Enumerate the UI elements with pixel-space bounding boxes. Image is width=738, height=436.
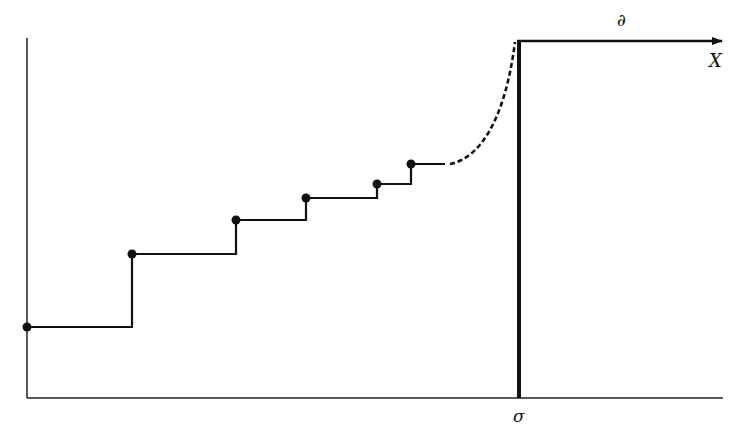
step-dot [232, 216, 241, 225]
step-dot [373, 180, 382, 189]
partial-label: ∂ [617, 10, 626, 30]
x-axis-label: X [709, 50, 722, 71]
step-dot [407, 160, 416, 169]
step-dot [128, 250, 137, 259]
diagram-canvas: ∂ X σ [0, 0, 738, 436]
sigma-label: σ [513, 406, 525, 426]
step-dot [23, 323, 32, 332]
step-function-diagram [0, 0, 738, 436]
dashed-curve [450, 42, 515, 164]
step-dot [302, 194, 311, 203]
step-dots [23, 160, 416, 332]
step-function [27, 164, 445, 327]
